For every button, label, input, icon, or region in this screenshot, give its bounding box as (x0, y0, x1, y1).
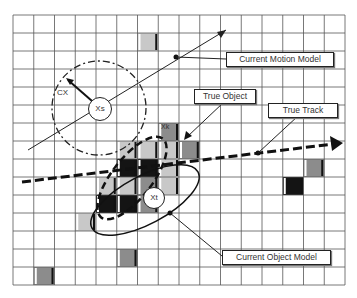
cell-highlight (118, 250, 120, 266)
xk-label: Xk (161, 123, 169, 130)
cell-edge (155, 34, 157, 50)
cell-edge (301, 178, 303, 194)
callout-current-object-model: Current Object Model (222, 250, 331, 265)
motion-callout-leader (176, 57, 226, 59)
node-xt: Xt (143, 187, 165, 209)
cx-radius-arrow (68, 80, 92, 101)
cell-edge (135, 178, 137, 194)
true-track-leader (258, 116, 298, 153)
cell-highlight (159, 142, 161, 158)
cell-mid (304, 159, 325, 177)
cell-light (117, 141, 138, 159)
cell-highlight (284, 178, 286, 194)
cell-edge (155, 160, 157, 176)
cell-light (138, 33, 159, 51)
cell-edge (176, 124, 178, 140)
cell-highlight (35, 268, 37, 284)
cell-highlight (118, 178, 120, 194)
cell-highlight (118, 160, 120, 176)
cell-highlight (76, 214, 78, 230)
object-model-leader (170, 213, 222, 256)
node-xt-label: Xt (150, 193, 158, 202)
cell-mid (117, 249, 138, 267)
cell-mid (179, 141, 200, 159)
cell-edge (197, 142, 199, 158)
cell-edge (93, 214, 95, 230)
node-xs-label: Xs (95, 104, 104, 113)
cell-edge (135, 250, 137, 266)
cell-edge (155, 142, 157, 158)
cell-edge (176, 142, 178, 158)
cell-highlight (97, 178, 99, 194)
cell-edge (176, 178, 178, 194)
cell-highlight (180, 142, 182, 158)
cx-label: CX (57, 88, 68, 97)
cell-edge (135, 160, 137, 176)
cell-edge (321, 160, 323, 176)
cell-mid (34, 267, 55, 285)
cell-edge (114, 196, 116, 212)
callout-current-motion-model: Current Motion Model (226, 52, 334, 67)
cell-light (158, 141, 179, 159)
cell-highlight (139, 34, 141, 50)
cell-highlight (118, 142, 120, 158)
cell-highlight (118, 196, 120, 212)
true-object-arrowhead-icon (184, 131, 192, 140)
callout-true-track: True Track (268, 103, 338, 118)
cell-dark (283, 177, 304, 195)
node-xs: Xs (88, 97, 112, 121)
cell-highlight (305, 160, 307, 176)
callout-true-object: True Object (194, 89, 256, 104)
cell-edge (52, 268, 54, 284)
motion-arrowhead-icon (217, 30, 226, 38)
cell-light (117, 177, 138, 195)
true-object-leader (187, 102, 224, 137)
cell-highlight (139, 178, 141, 194)
true-track-arrowhead-icon (330, 136, 343, 151)
